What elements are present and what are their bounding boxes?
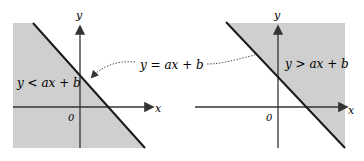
center-label: y = ax + b xyxy=(92,55,255,77)
pointer-line-right xyxy=(207,55,255,64)
x-axis-label: x xyxy=(348,104,355,117)
region-label: y < ax + b xyxy=(16,76,81,90)
pointer-arrow-left xyxy=(92,62,135,77)
origin-label: 0 xyxy=(266,112,273,123)
x-axis-label: x xyxy=(155,102,162,115)
left-graph: x y 0 y < ax + b xyxy=(13,9,162,148)
y-axis-label: y xyxy=(273,9,281,22)
diagram: x y 0 y < ax + b y = ax + b x y 0 y > ax… xyxy=(0,0,364,161)
right-graph: x y 0 y > ax + b xyxy=(195,9,355,148)
y-axis-label: y xyxy=(75,9,83,22)
boundary-equation: y = ax + b xyxy=(139,58,204,72)
origin-label: 0 xyxy=(68,112,75,123)
region-label: y > ax + b xyxy=(284,57,349,71)
